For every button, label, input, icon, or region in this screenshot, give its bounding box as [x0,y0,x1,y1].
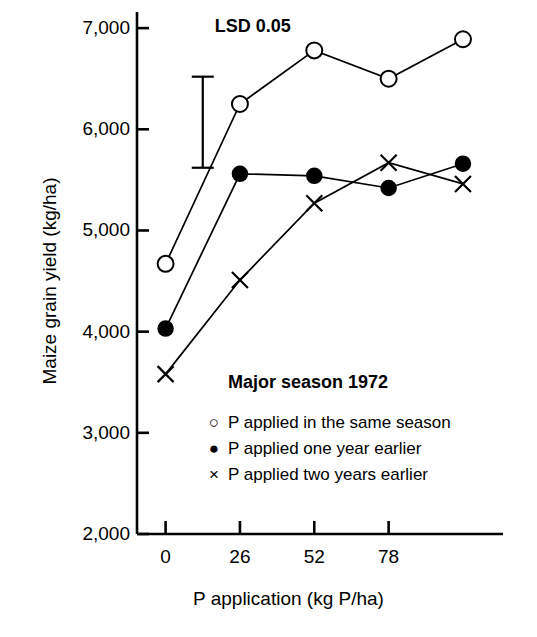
chart-figure: Maize grain yield (kg/ha) P application … [0,0,537,637]
series-line-0 [166,39,463,264]
data-point-open-circle [306,42,322,58]
data-point-open-circle [158,256,174,272]
data-point-filled-circle [158,321,173,336]
data-point-open-circle [381,71,397,87]
data-point-filled-circle [381,180,396,195]
series-line-1 [166,164,463,329]
data-point-filled-circle [455,156,470,171]
data-point-filled-circle [232,166,247,181]
data-point-filled-circle [307,168,322,183]
data-point-open-circle [232,96,248,112]
data-point-open-circle [455,31,471,47]
series-line-2 [166,163,463,374]
plot-area [0,0,537,637]
